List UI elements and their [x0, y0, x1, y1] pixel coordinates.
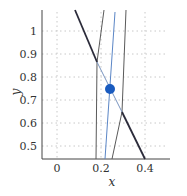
y-tick: 0.5	[20, 140, 38, 153]
x-tick-labels: 0 0.2 0.4	[54, 162, 154, 175]
y-tick: 0.9	[20, 48, 38, 61]
chart: 1 0.9 0.8 0.7 0.6 0.5 0 0.2 0.4 x y	[0, 0, 187, 196]
y-tick: 1	[30, 25, 37, 38]
thick-boundary-lower	[122, 112, 145, 159]
y-tick: 0.8	[20, 71, 38, 84]
grid	[42, 12, 165, 159]
x-tick: 0.2	[92, 162, 110, 175]
y-axis-label: y	[9, 88, 23, 96]
x-axis-label: x	[109, 175, 116, 189]
x-tick: 0.4	[136, 162, 154, 175]
x-tick: 0	[54, 162, 61, 175]
marker-point	[105, 84, 115, 94]
gray-curve-left	[96, 10, 104, 159]
y-tick: 0.6	[20, 117, 38, 130]
